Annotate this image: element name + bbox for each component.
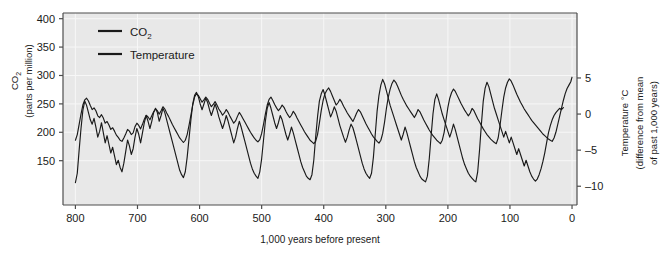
co2-temperature-chart: 40035030025020015050–5–10800700600500400… (0, 0, 668, 253)
tick-label-bottom: 200 (439, 212, 457, 224)
tick-label-right: 5 (585, 72, 591, 84)
y-axis-title-right-line3: of past 1,000 years) (648, 81, 659, 165)
x-axis-title: 1,000 years before present (260, 234, 380, 245)
tick-label-bottom: 700 (128, 212, 146, 224)
tick-label-left: 350 (37, 41, 55, 53)
tick-label-bottom: 100 (501, 212, 519, 224)
y-axis-title-left-line1: CO2 (9, 72, 22, 90)
tick-label-bottom: 500 (252, 212, 270, 224)
y-axis-title-right-line1: Temperature °C (619, 90, 630, 157)
y-axis-title-right-line2: (difference from mean (634, 77, 645, 170)
legend-label: Temperature (130, 49, 195, 61)
tick-label-left: 200 (37, 126, 55, 138)
tick-label-left: 300 (37, 69, 55, 81)
tick-label-right: 0 (585, 108, 591, 120)
tick-label-right: –10 (585, 180, 603, 192)
plot-background (63, 13, 577, 205)
tick-label-bottom: 300 (377, 212, 395, 224)
tick-label-bottom: 400 (315, 212, 333, 224)
tick-label-right: –5 (585, 144, 597, 156)
chart-figure: 40035030025020015050–5–10800700600500400… (0, 0, 668, 253)
tick-label-left: 400 (37, 13, 55, 25)
tick-label-bottom: 600 (190, 212, 208, 224)
tick-label-left: 250 (37, 98, 55, 110)
tick-label-bottom: 0 (569, 212, 575, 224)
plot-area (63, 13, 577, 205)
tick-label-bottom: 800 (66, 212, 84, 224)
tick-label-left: 150 (37, 155, 55, 167)
y-axis-title-left-line2: (parts per million) (23, 44, 34, 117)
